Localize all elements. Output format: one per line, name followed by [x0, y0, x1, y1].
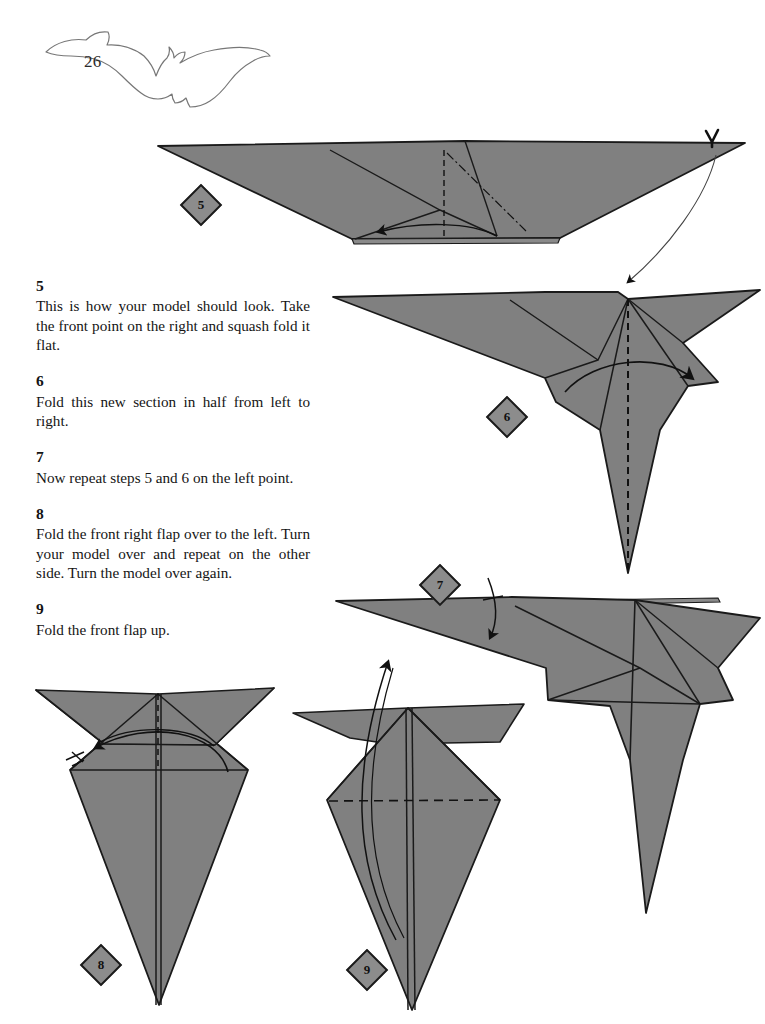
diagram-7-artwork — [336, 578, 760, 913]
step-text-7: Now repeat steps 5 and 6 on the left poi… — [36, 468, 310, 487]
step-text-5: This is how your model should look. Take… — [36, 296, 310, 354]
bat-silhouette-icon — [38, 22, 278, 122]
step-number-7: 7 — [36, 447, 310, 466]
origami-instruction-page: 26 — [0, 0, 765, 1024]
step-number-5: 5 — [36, 276, 310, 295]
step-text-6: Fold this new section in half from left … — [36, 392, 310, 431]
step-text-8: Fold the front right flap over to the le… — [36, 524, 310, 582]
step-badge-7: 7 — [419, 564, 461, 606]
instruction-step-7: 7 Now repeat steps 5 and 6 on the left p… — [36, 447, 310, 487]
diagram-5-artwork — [158, 130, 745, 282]
instruction-text-column: 5 This is how your model should look. Ta… — [36, 276, 310, 639]
step-badge-8: 8 — [80, 944, 122, 986]
instruction-step-5: 5 This is how your model should look. Ta… — [36, 276, 310, 354]
step-badge-5: 5 — [180, 184, 222, 226]
step-badge-9: 9 — [346, 949, 388, 991]
step-number-6: 6 — [36, 371, 310, 390]
diagram-6-artwork — [333, 290, 760, 573]
instruction-step-6: 6 Fold this new section in half from lef… — [36, 371, 310, 430]
step-badge-6: 6 — [486, 396, 528, 438]
instruction-step-8: 8 Fold the front right flap over to the … — [36, 504, 310, 582]
step-number-8: 8 — [36, 504, 310, 523]
diagram-8-artwork — [36, 688, 274, 1005]
instruction-step-9: 9 Fold the front flap up. — [36, 599, 310, 639]
page-number: 26 — [84, 52, 102, 72]
step-number-9: 9 — [36, 599, 310, 618]
step-text-9: Fold the front flap up. — [36, 620, 310, 639]
diagram-9-artwork — [293, 662, 524, 1010]
